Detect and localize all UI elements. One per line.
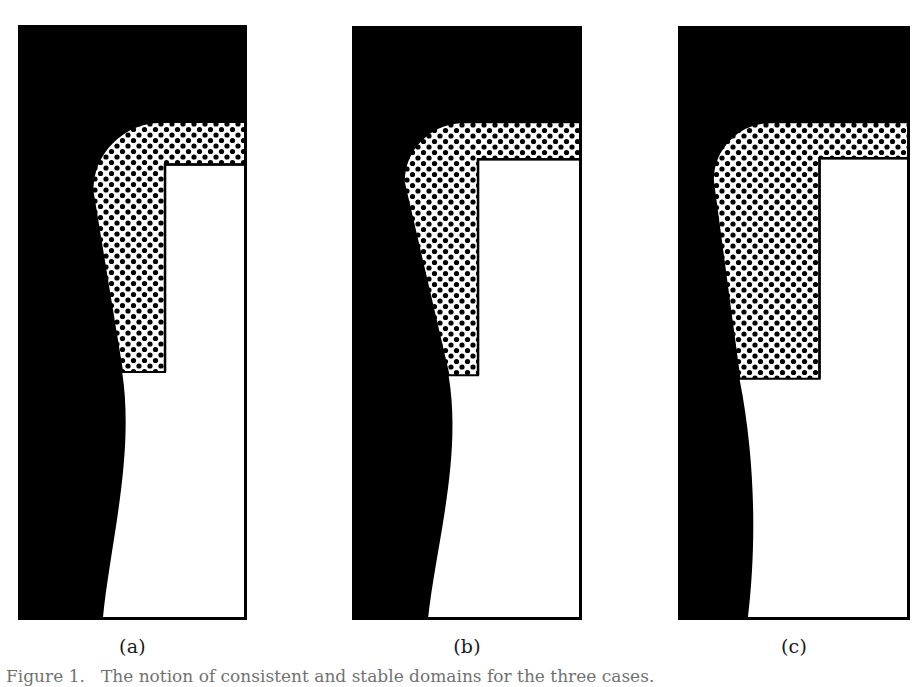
figure-caption-text: The notion of consistent and stable doma… <box>101 666 654 686</box>
panel-b-label: (b) <box>352 634 582 658</box>
panel-b <box>352 26 582 620</box>
panel-a-label: (a) <box>18 634 247 658</box>
figure-caption: Figure 1.The notion of consistent and st… <box>6 666 918 687</box>
figure-caption-label: Figure 1. <box>6 666 85 686</box>
panel-c-canvas <box>678 26 910 620</box>
panel-c <box>678 26 910 620</box>
panel-a-canvas <box>18 25 247 620</box>
panel-c-label: (c) <box>678 634 910 658</box>
panel-b-canvas <box>352 26 582 620</box>
panel-a <box>18 25 247 620</box>
